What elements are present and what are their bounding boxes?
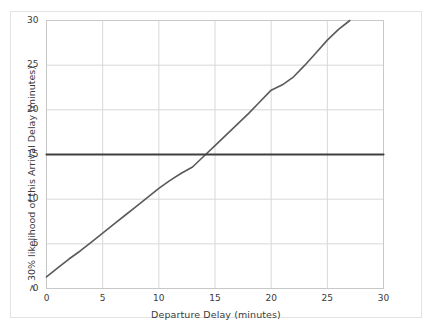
y-axis-title: > 30% likelihood of this Arrival Delay (… [26, 66, 37, 292]
y-tick-label: 5 [17, 238, 39, 248]
y-tick-label: 25 [17, 59, 39, 69]
chart-figure: > 30% likelihood of this Arrival Delay (… [0, 0, 432, 329]
y-tick-label: 10 [17, 193, 39, 203]
x-tick-label: 15 [204, 293, 226, 303]
y-tick-label: 30 [17, 15, 39, 25]
x-axis-title: Departure Delay (minutes) [0, 309, 432, 320]
y-tick-label: 0 [17, 283, 39, 293]
plot-area-wrapper [0, 0, 432, 329]
x-tick-label: 25 [316, 293, 338, 303]
x-tick-label: 0 [36, 293, 58, 303]
y-tick-label: 20 [17, 104, 39, 114]
line-chart-svg [0, 0, 432, 329]
x-tick-label: 10 [148, 293, 170, 303]
y-tick-label: 15 [17, 149, 39, 159]
x-tick-label: 20 [260, 293, 282, 303]
x-tick-label: 30 [373, 293, 395, 303]
x-tick-label: 5 [92, 293, 114, 303]
